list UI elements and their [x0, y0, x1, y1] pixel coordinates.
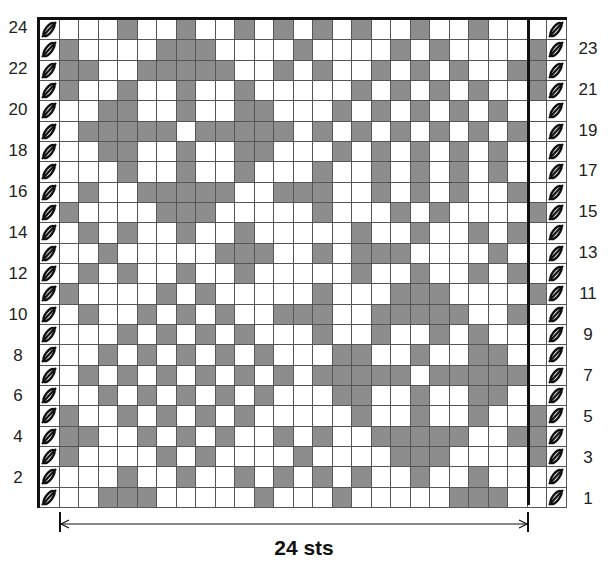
chart-cell-r5-c20 — [430, 406, 450, 426]
chart-cell-r20-c17 — [372, 101, 392, 121]
chart-cell-r16-c15 — [333, 183, 353, 203]
chart-cell-r21-c6 — [157, 81, 177, 101]
chart-cell-r2-c6 — [157, 467, 177, 487]
chart-cell-r10-c24 — [508, 305, 528, 325]
chart-cell-r1-c16 — [352, 488, 372, 508]
edge-stitch-icon — [40, 223, 60, 243]
chart-cell-r17-c10 — [235, 162, 255, 182]
chart-cell-r20-c5 — [138, 101, 158, 121]
edge-stitch-icon — [40, 183, 60, 203]
chart-cell-r2-c7 — [177, 467, 197, 487]
chart-cell-r14-c11 — [255, 223, 275, 243]
chart-cell-r6-c19 — [411, 386, 431, 406]
chart-cell-r12-c22 — [469, 264, 489, 284]
chart-cell-r13-c13 — [294, 244, 314, 264]
chart-cell-r20-c13 — [294, 101, 314, 121]
chart-cell-r20-c7 — [177, 101, 197, 121]
chart-cell-r16-c24 — [508, 183, 528, 203]
chart-cell-r2-c5 — [138, 467, 158, 487]
chart-cell-r23-c10 — [235, 40, 255, 60]
chart-cell-r2-c19 — [411, 467, 431, 487]
chart-cell-r6-c18 — [391, 386, 411, 406]
edge-stitch-icon — [547, 162, 567, 182]
chart-cell-r20-c8 — [196, 101, 216, 121]
chart-cell-r16-c9 — [216, 183, 236, 203]
chart-cell-r1-c22 — [469, 488, 489, 508]
chart-cell-r22-c22 — [469, 61, 489, 81]
chart-cell-r20-c20 — [430, 101, 450, 121]
chart-cell-r3-c18 — [391, 447, 411, 467]
chart-cell-r11-c3 — [99, 284, 119, 304]
chart-cell-r4-c10 — [235, 427, 255, 447]
chart-cell-r1-c2 — [79, 488, 99, 508]
chart-cell-r9-c17 — [372, 325, 392, 345]
chart-cell-r13-c21 — [450, 244, 470, 264]
chart-cell-r12-c25 — [528, 264, 548, 284]
chart-cell-r17-c21 — [450, 162, 470, 182]
chart-cell-r6-c22 — [469, 386, 489, 406]
chart-cell-r4-c16 — [352, 427, 372, 447]
chart-cell-r8-c4 — [118, 345, 138, 365]
edge-stitch-icon — [547, 386, 567, 406]
chart-cell-r3-c21 — [450, 447, 470, 467]
chart-cell-r24-c5 — [138, 20, 158, 40]
chart-cell-r9-c21 — [450, 325, 470, 345]
chart-cell-r15-c2 — [79, 203, 99, 223]
chart-cell-r3-c13 — [294, 447, 314, 467]
chart-cell-r10-c25 — [528, 305, 548, 325]
chart-cell-r3-c17 — [372, 447, 392, 467]
edge-stitch-icon — [547, 427, 567, 447]
chart-cell-r14-c4 — [118, 223, 138, 243]
chart-cell-r19-c8 — [196, 122, 216, 142]
chart-cell-r11-c6 — [157, 284, 177, 304]
chart-cell-r4-c20 — [430, 427, 450, 447]
chart-cell-r11-c9 — [216, 284, 236, 304]
chart-cell-r14-c19 — [411, 223, 431, 243]
chart-cell-r2-c20 — [430, 467, 450, 487]
chart-cell-r19-c19 — [411, 122, 431, 142]
chart-cell-r2-c9 — [216, 467, 236, 487]
chart-cell-r10-c6 — [157, 305, 177, 325]
chart-cell-r2-c21 — [450, 467, 470, 487]
chart-cell-r17-c14 — [313, 162, 333, 182]
chart-cell-r13-c7 — [177, 244, 197, 264]
chart-cell-r16-c1 — [60, 183, 80, 203]
chart-cell-r1-c10 — [235, 488, 255, 508]
chart-cell-r5-c19 — [411, 406, 431, 426]
chart-cell-r1-c20 — [430, 488, 450, 508]
edge-stitch-icon — [40, 20, 60, 40]
chart-cell-r17-c11 — [255, 162, 275, 182]
chart-cell-r20-c12 — [274, 101, 294, 121]
chart-cell-r15-c19 — [411, 203, 431, 223]
chart-cell-r7-c5 — [138, 366, 158, 386]
chart-cell-r15-c21 — [450, 203, 470, 223]
chart-cell-r19-c9 — [216, 122, 236, 142]
row-label-19: 19 — [574, 122, 602, 139]
chart-cell-r15-c1 — [60, 203, 80, 223]
edge-stitch-icon — [547, 325, 567, 345]
chart-cell-r21-c8 — [196, 81, 216, 101]
edge-stitch-icon — [547, 183, 567, 203]
chart-cell-r8-c12 — [274, 345, 294, 365]
chart-cell-r10-c10 — [235, 305, 255, 325]
chart-cell-r23-c13 — [294, 40, 314, 60]
row-label-2: 2 — [4, 469, 32, 486]
row-label-18: 18 — [4, 142, 32, 159]
chart-cell-r5-c1 — [60, 406, 80, 426]
chart-cell-r11-c20 — [430, 284, 450, 304]
chart-cell-r19-c5 — [138, 122, 158, 142]
chart-cell-r4-c19 — [411, 427, 431, 447]
chart-cell-r7-c21 — [450, 366, 470, 386]
chart-cell-r21-c15 — [333, 81, 353, 101]
chart-cell-r24-c18 — [391, 20, 411, 40]
chart-cell-r3-c4 — [118, 447, 138, 467]
chart-cell-r17-c3 — [99, 162, 119, 182]
chart-cell-r14-c7 — [177, 223, 197, 243]
chart-cell-r23-c20 — [430, 40, 450, 60]
chart-cell-r23-c25 — [528, 40, 548, 60]
chart-cell-r3-c24 — [508, 447, 528, 467]
chart-cell-r2-c13 — [294, 467, 314, 487]
chart-cell-r2-c10 — [235, 467, 255, 487]
chart-cell-r5-c7 — [177, 406, 197, 426]
chart-cell-r19-c6 — [157, 122, 177, 142]
